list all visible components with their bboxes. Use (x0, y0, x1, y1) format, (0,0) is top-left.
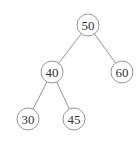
tree-node-left-left: 30 (17, 108, 39, 130)
tree-node-right: 60 (111, 61, 133, 83)
tree-node-left: 40 (41, 61, 63, 83)
node-label: 45 (68, 112, 81, 127)
tree-node-left-right: 45 (63, 108, 85, 130)
tree-node-root: 50 (77, 14, 99, 36)
nodes-layer: 50 40 60 30 45 (17, 14, 133, 130)
node-label: 60 (116, 65, 129, 80)
node-label: 40 (46, 65, 59, 80)
node-label: 50 (82, 18, 95, 33)
node-label: 30 (22, 112, 35, 127)
binary-tree-diagram: 50 40 60 30 45 (0, 0, 140, 141)
